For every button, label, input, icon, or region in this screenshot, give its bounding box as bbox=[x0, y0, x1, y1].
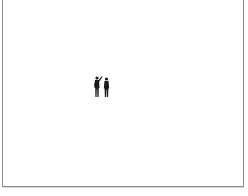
figure-standing bbox=[104, 77, 109, 97]
two-figures-silhouette bbox=[92, 75, 112, 99]
figure-pointing bbox=[94, 76, 103, 97]
image-frame bbox=[2, 0, 244, 187]
